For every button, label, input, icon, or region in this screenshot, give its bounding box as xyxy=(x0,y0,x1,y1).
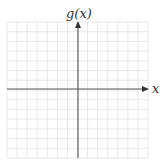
y-axis-label: g(x) xyxy=(66,6,92,21)
coordinate-plane: g(x) x xyxy=(0,0,164,166)
x-axis-label: x xyxy=(152,81,160,96)
